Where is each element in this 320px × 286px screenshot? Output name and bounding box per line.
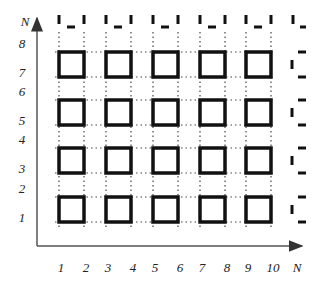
y-tick-label: 8 xyxy=(19,36,26,52)
x-axis-label: N xyxy=(293,260,302,276)
x-tick-label: 9 xyxy=(245,260,252,276)
x-tick-label: 10 xyxy=(267,260,280,276)
y-axis-label: N xyxy=(21,14,30,30)
x-tick-label: 2 xyxy=(83,260,90,276)
x-tick-label: 3 xyxy=(105,260,112,276)
solid-squares xyxy=(59,52,271,222)
x-tick-label: 4 xyxy=(130,260,137,276)
x-tick-label: 6 xyxy=(177,260,184,276)
x-tick-label: 8 xyxy=(224,260,231,276)
y-tick-label: 4 xyxy=(19,132,26,148)
y-tick-label: 7 xyxy=(19,65,26,81)
x-tick-label: 1 xyxy=(58,260,65,276)
x-tick-label: 7 xyxy=(199,260,206,276)
y-tick-label: 3 xyxy=(19,161,26,177)
y-tick-label: 6 xyxy=(19,84,26,100)
y-tick-label: 2 xyxy=(19,181,26,197)
y-tick-label: 5 xyxy=(19,113,26,129)
y-tick-label: 1 xyxy=(19,210,26,226)
lattice-diagram xyxy=(0,0,320,286)
x-tick-label: 5 xyxy=(152,260,159,276)
dashed-partial-squares xyxy=(59,15,306,222)
